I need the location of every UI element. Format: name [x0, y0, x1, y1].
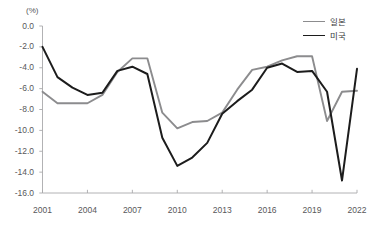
y-tick-label: -2.0	[0, 41, 34, 51]
series-line-japan	[43, 56, 358, 128]
series-line-usa	[43, 47, 358, 181]
x-tick-label: 2010	[157, 205, 197, 215]
x-tick-label: 2007	[112, 205, 152, 215]
x-tick-label: 2019	[292, 205, 332, 215]
y-tick-label: -4.0	[0, 62, 34, 72]
line-chart: (%) 0.0-2.0-4.0-6.0-8.0-10.0-12.0-14.0-1…	[0, 0, 369, 236]
y-tick-label: -8.0	[0, 104, 34, 114]
x-tick-label: 2013	[202, 205, 242, 215]
x-tick-label: 2016	[247, 205, 287, 215]
legend-item-usa: 미국	[303, 28, 346, 42]
legend-item-japan: 일본	[303, 14, 346, 28]
x-tick-label: 2022	[337, 205, 369, 215]
y-tick-label: 0.0	[0, 21, 34, 31]
legend-swatch-usa	[303, 35, 325, 36]
chart-legend: 일본 미국	[303, 14, 346, 42]
legend-swatch-japan	[303, 21, 325, 22]
x-tick-label: 2004	[67, 205, 107, 215]
x-tick-label: 2001	[23, 205, 63, 215]
legend-label-japan: 일본	[330, 15, 346, 27]
legend-label-usa: 미국	[330, 29, 346, 41]
y-tick-label: -14.0	[0, 167, 34, 177]
y-tick-label: -10.0	[0, 125, 34, 135]
y-tick-label: -16.0	[0, 188, 34, 198]
y-tick-label: -12.0	[0, 146, 34, 156]
y-tick-label: -6.0	[0, 83, 34, 93]
